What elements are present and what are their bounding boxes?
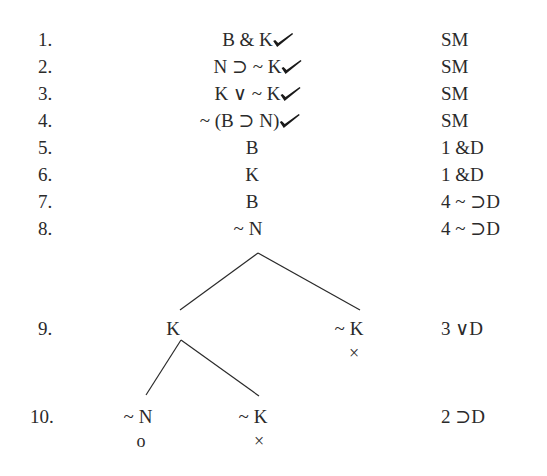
justification: SM	[441, 83, 468, 105]
checkmark-icon	[280, 59, 302, 75]
justification: 3 ∨D	[441, 318, 483, 340]
branch-line-left	[180, 253, 258, 310]
line-number: 2.	[38, 56, 52, 78]
branch-line-right	[258, 253, 360, 310]
closed-branch-mark: ×	[349, 342, 359, 364]
branch-node-left: K	[166, 318, 180, 340]
formula: N ⊃ ~ K	[214, 56, 303, 78]
line-number: 1.	[38, 29, 52, 51]
branch-node-left: ~ N	[124, 406, 153, 428]
subbranch-line-left	[146, 340, 181, 395]
line-number: 6.	[38, 164, 52, 186]
justification: 2 ⊃D	[441, 406, 485, 428]
justification: SM	[441, 56, 468, 78]
checkmark-icon	[272, 32, 294, 48]
justification: 4 ~ ⊃D	[441, 218, 500, 240]
checkmark-icon	[278, 113, 300, 129]
line-number: 3.	[38, 83, 52, 105]
open-branch-mark: o	[137, 430, 146, 452]
justification: SM	[441, 110, 468, 132]
closed-branch-mark: ×	[254, 430, 264, 452]
line-number: 7.	[38, 191, 52, 213]
justification: 4 ~ ⊃D	[441, 191, 500, 213]
line-number: 4.	[38, 110, 52, 132]
line-number: 10.	[30, 406, 54, 428]
justification: 1 &D	[441, 137, 484, 159]
justification: SM	[441, 29, 468, 51]
justification: 1 &D	[441, 164, 484, 186]
formula: ~ N	[234, 218, 263, 240]
subbranch-line-right	[181, 340, 259, 396]
formula: B	[246, 137, 259, 159]
line-number: 5.	[38, 137, 52, 159]
branch-node-right: ~ K	[335, 318, 364, 340]
checkmark-icon	[279, 86, 301, 102]
formula: ~ (B ⊃ N)	[200, 110, 301, 132]
line-number: 9.	[38, 318, 52, 340]
formula: K	[245, 164, 259, 186]
line-number: 8.	[38, 218, 52, 240]
formula: K ∨ ~ K	[215, 83, 302, 105]
formula: B	[246, 191, 259, 213]
branch-node-right: ~ K	[239, 406, 268, 428]
formula: B & K	[222, 29, 294, 51]
